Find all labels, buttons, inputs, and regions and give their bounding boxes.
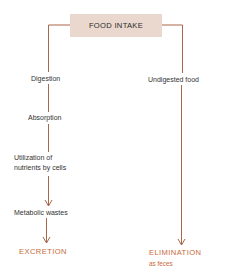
food-intake-box: FOOD INTAKE — [70, 14, 162, 37]
step-metabolic-wastes: Metabolic wastes — [14, 208, 68, 217]
step-digestion: Digestion — [31, 74, 60, 83]
left-connector-line — [49, 25, 71, 72]
flow-lines — [0, 0, 225, 273]
step-utilization-line1: Utilization of — [14, 153, 52, 162]
outcome-elimination-note: as feces — [149, 260, 173, 267]
food-intake-label: FOOD INTAKE — [89, 21, 143, 30]
right-connector-line — [162, 25, 183, 73]
step-absorption: Absorption — [28, 113, 61, 122]
step-utilization-line2: nutrients by cells — [14, 163, 66, 172]
outcome-elimination: ELIMINATION — [149, 248, 201, 257]
outcome-excretion: EXCRETION — [19, 247, 67, 256]
step-undigested-food: Undigested food — [148, 75, 199, 84]
